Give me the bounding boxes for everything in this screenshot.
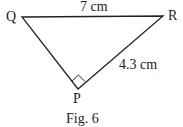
vertex-label-r: R [168, 9, 177, 23]
side-label-pr: 4.3 cm [119, 58, 157, 72]
right-angle-marker [72, 75, 86, 82]
figure-caption: Fig. 6 [66, 112, 99, 126]
side-label-qr: 7 cm [80, 0, 108, 14]
triangle-pqr [22, 16, 163, 89]
vertex-label-q: Q [6, 10, 16, 24]
triangle-figure: Q R P 7 cm 4.3 cm Fig. 6 [0, 0, 183, 127]
vertex-label-p: P [73, 92, 81, 106]
